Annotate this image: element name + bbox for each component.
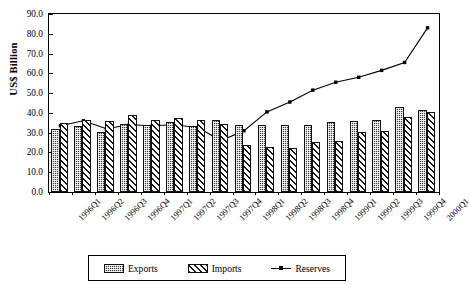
x-axis-tick-label: 1998Q2	[283, 196, 310, 223]
bar-exports	[258, 125, 266, 192]
bar-exports	[166, 122, 174, 192]
x-axis-tick-label: 1998Q1	[260, 196, 287, 223]
bar-exports	[51, 129, 59, 192]
x-axis-tick	[370, 192, 371, 195]
x-axis-tick-label: 1996Q2	[100, 196, 127, 223]
x-axis-labels: 1996Q11996Q21996Q31996Q41997Q11997Q21997…	[48, 196, 440, 254]
x-axis-tick-label: 1997Q2	[191, 196, 218, 223]
bar-imports	[243, 145, 251, 192]
bar-exports	[189, 126, 197, 192]
bar-group	[347, 14, 370, 192]
x-axis-tick-label: 1999Q3	[398, 196, 425, 223]
x-axis-tick-label: 1996Q4	[145, 196, 172, 223]
bar-imports	[105, 121, 113, 192]
bar-exports	[327, 122, 335, 192]
bar-group	[416, 14, 439, 192]
x-axis-tick	[416, 192, 417, 195]
legend-label-imports: Imports	[212, 263, 242, 274]
bar-imports	[289, 148, 297, 193]
x-axis-tick	[210, 192, 211, 195]
bar-imports	[427, 112, 435, 192]
chart-legend: Exports Imports Reserves	[88, 255, 346, 281]
y-axis-tick-label: 20.0	[27, 147, 43, 157]
x-axis-tick	[118, 192, 119, 195]
x-axis-tick	[141, 192, 142, 195]
x-axis-tick	[95, 192, 96, 195]
x-axis-tick-label: 1996Q1	[77, 196, 104, 223]
bar-imports	[197, 120, 205, 192]
x-axis-tick-label: 2000Q1	[444, 196, 470, 223]
y-axis-title: US$ Billion	[8, 14, 26, 124]
bar-imports	[381, 131, 389, 192]
x-axis-tick	[233, 192, 234, 195]
bar-exports	[120, 124, 128, 192]
bar-imports	[151, 120, 159, 192]
x-axis-tick-label: 1999Q1	[352, 196, 379, 223]
bar-imports	[358, 132, 366, 192]
y-axis-tick-label: 10.0	[27, 167, 43, 177]
x-axis-tick-label: 1998Q4	[329, 196, 356, 223]
bar-imports	[60, 123, 68, 192]
x-axis-tick	[439, 192, 440, 195]
x-axis-tick-label: 1997Q4	[237, 196, 264, 223]
legend-item-exports: Exports	[104, 263, 158, 274]
y-axis-tick-label: 90.0	[27, 9, 43, 19]
x-axis-tick	[49, 192, 50, 195]
bar-exports	[74, 126, 82, 192]
bar-imports	[174, 118, 182, 192]
legend-label-exports: Exports	[128, 263, 158, 274]
bar-exports	[395, 107, 403, 192]
legend-item-reserves: Reserves	[271, 263, 330, 274]
bar-group	[72, 14, 95, 192]
bar-exports	[212, 120, 220, 192]
x-axis-tick	[278, 192, 279, 195]
x-axis-tick	[347, 192, 348, 195]
x-axis-tick-label: 1996Q3	[122, 196, 149, 223]
bar-group	[164, 14, 187, 192]
bar-exports	[235, 125, 243, 192]
x-axis-tick-label: 1997Q1	[168, 196, 195, 223]
bar-exports	[350, 121, 358, 192]
bar-exports	[372, 120, 380, 192]
bar-exports	[143, 125, 151, 192]
bar-group	[118, 14, 141, 192]
y-axis-tick-label: 0.0	[31, 187, 43, 197]
bar-group	[141, 14, 164, 192]
bar-group	[49, 14, 72, 192]
bar-imports	[82, 120, 90, 192]
bar-exports	[97, 132, 105, 192]
bar-group	[233, 14, 256, 192]
x-axis-tick-label: 1999Q2	[375, 196, 402, 223]
legend-swatch-imports	[188, 264, 208, 273]
y-axis-tick-label: 70.0	[27, 49, 43, 59]
x-axis-tick	[72, 192, 73, 195]
bar-group	[278, 14, 301, 192]
legend-swatch-exports	[104, 264, 124, 273]
bar-group	[187, 14, 210, 192]
bar-imports	[266, 147, 274, 192]
x-axis-tick	[187, 192, 188, 195]
y-axis-tick-label: 50.0	[27, 88, 43, 98]
bar-group	[370, 14, 393, 192]
bar-group	[393, 14, 416, 192]
y-axis-tick-label: 40.0	[27, 108, 43, 118]
bar-imports	[335, 141, 343, 192]
x-axis-tick	[393, 192, 394, 195]
legend-label-reserves: Reserves	[295, 263, 330, 274]
bar-group	[210, 14, 233, 192]
plot-area: 0.010.020.030.040.050.060.070.080.090.0	[48, 13, 440, 193]
x-axis-tick-label: 1998Q3	[306, 196, 333, 223]
bar-imports	[220, 124, 228, 192]
x-axis-tick-label: 1997Q3	[214, 196, 241, 223]
bar-exports	[418, 110, 426, 192]
legend-item-imports: Imports	[188, 263, 242, 274]
bar-group	[301, 14, 324, 192]
y-axis-tick-label: 60.0	[27, 68, 43, 78]
bar-exports	[304, 125, 312, 192]
bar-group	[255, 14, 278, 192]
bar-group	[95, 14, 118, 192]
x-axis-tick-label: 1999Q4	[421, 196, 448, 223]
bar-exports	[281, 125, 289, 192]
bar-imports	[404, 117, 412, 192]
